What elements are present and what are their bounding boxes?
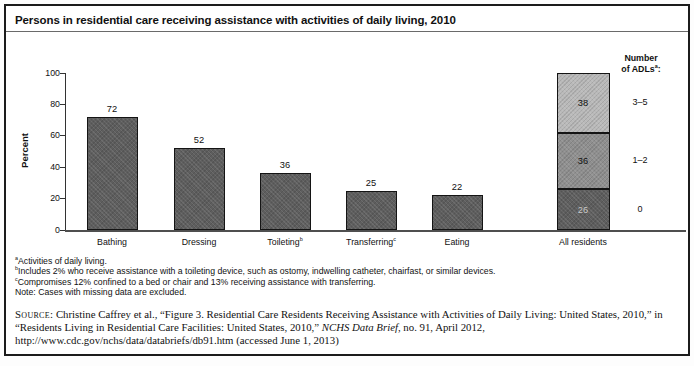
category-label: All residents	[535, 237, 631, 247]
footnote-b: bIncludes 2% who receive assistance with…	[15, 266, 680, 276]
footnotes-block: aActivities of daily living.bIncludes 2%…	[15, 256, 680, 298]
category-label: Transferringc	[323, 237, 419, 247]
stack-segment-adl-3–5: 38	[557, 73, 610, 133]
x-axis-line	[65, 230, 686, 232]
footnote-note: Note: Cases with missing data are exclud…	[15, 287, 680, 297]
stack-segment-adl-0: 26	[557, 189, 610, 230]
y-tick-label: 60	[28, 130, 60, 140]
stack-segment-adl-1–2: 36	[557, 133, 610, 190]
bar-value-label: 72	[92, 104, 132, 114]
y-tick-label: 100	[28, 68, 60, 78]
y-tick-label: 80	[28, 99, 60, 109]
footnote-c: cCompromises 12% confined to a bed or ch…	[15, 277, 680, 287]
bar-value-label: 22	[437, 182, 477, 192]
y-tick-label: 0	[28, 225, 60, 235]
legend-label-adl-3–5: 3–5	[622, 97, 658, 107]
legend-title: Numberof ADLsa:	[601, 53, 681, 75]
bar-eating	[432, 195, 483, 230]
bar-bathing	[87, 117, 138, 230]
y-tick-mark	[60, 135, 65, 136]
bar-dressing	[174, 148, 225, 230]
y-tick-mark	[60, 230, 65, 231]
y-tick-mark	[60, 198, 65, 199]
y-tick-label: 40	[28, 162, 60, 172]
category-label: Dressing	[151, 237, 247, 247]
bar-transferring	[346, 191, 397, 230]
category-label: Eating	[409, 237, 505, 247]
bar-toileting	[260, 173, 311, 230]
category-label: Toiletingb	[237, 237, 333, 247]
y-tick-mark	[60, 167, 65, 168]
legend-label-adl-0: 0	[622, 204, 658, 214]
source-journal-title: NCHS Data Brief	[322, 321, 398, 333]
bar-value-label: 36	[265, 160, 305, 170]
footnote-a: aActivities of daily living.	[15, 256, 680, 266]
y-tick-mark	[60, 104, 65, 105]
figure-frame: Persons in residential care receiving as…	[4, 4, 690, 356]
y-axis-line	[65, 73, 66, 231]
bar-value-label: 52	[179, 135, 219, 145]
figure-page: Persons in residential care receiving as…	[0, 0, 694, 366]
category-label: Bathing	[64, 237, 160, 247]
bar-value-label: 25	[351, 178, 391, 188]
y-tick-label: 20	[28, 193, 60, 203]
legend-label-adl-1–2: 1–2	[622, 155, 658, 165]
bar-chart: Percent Numberof ADLsa: 02040608010072Ba…	[6, 6, 688, 354]
y-tick-mark	[60, 73, 65, 74]
source-citation: Source: Christine Caffrey et al., “Figur…	[15, 308, 683, 347]
source-label: Source:	[15, 308, 53, 320]
